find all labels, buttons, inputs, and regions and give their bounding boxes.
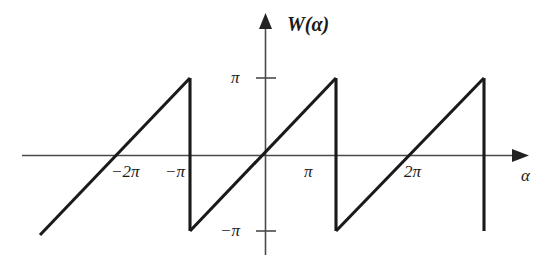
plot-canvas (0, 0, 548, 263)
x-axis-arrow-icon (512, 149, 529, 162)
y-tick-label-pi: π (231, 69, 240, 86)
ramp-segment-left-partial (40, 78, 190, 235)
y-tick-label-neg-pi: −π (220, 222, 240, 239)
x-tick-label-pi: π (304, 163, 313, 180)
x-tick-label-neg-2pi: −2π (111, 163, 140, 180)
x-tick-label-2pi: 2π (404, 163, 421, 180)
chart-figure: W(α) α π −π −2π −π π 2π (0, 0, 548, 263)
ramp-segment-center (190, 78, 336, 231)
x-axis-label: α (521, 167, 530, 184)
y-axis-arrow-icon (259, 13, 272, 29)
x-tick-label-neg-pi: −π (165, 163, 185, 180)
sawtooth-series (40, 78, 484, 235)
ramp-segment-right (336, 78, 484, 231)
y-axis-label: W(α) (287, 14, 329, 34)
